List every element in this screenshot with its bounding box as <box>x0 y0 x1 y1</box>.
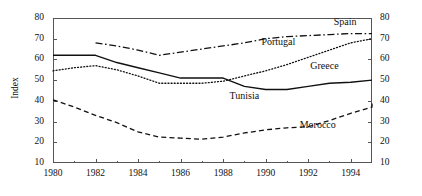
series-label-spain: Spain <box>334 16 357 27</box>
series-lines <box>0 0 422 196</box>
series-label-morocco: Morocco <box>300 119 336 130</box>
series-label-portugal: Portugal <box>261 36 295 47</box>
chart-root: Index 8070605040302010 8070605040302010 … <box>0 0 422 196</box>
series-line-spain <box>96 34 372 56</box>
series-label-greece: Greece <box>310 60 338 71</box>
series-label-tunisia: Tunisia <box>230 90 260 101</box>
